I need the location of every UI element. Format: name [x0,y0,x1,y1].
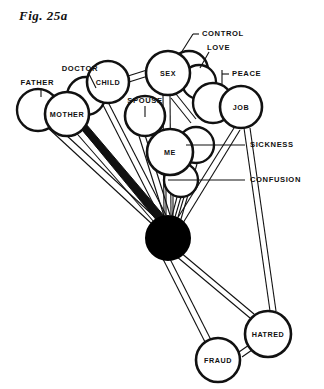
node-me-label: ME [164,148,176,157]
node-child-label: CHILD [96,78,121,87]
node-sex-label: SEX [160,69,176,78]
edge-hub-father [47,122,157,224]
callout-spouse-label: SPOUSE [127,96,162,105]
callout-control-label: CONTROL [202,29,244,38]
edge-job-hatred [244,128,276,311]
callout-doctor-label: DOCTOR [62,64,98,73]
diagram-svg: CHILD SEX JOB MOTHER ME HATRED FRAUD [0,0,324,389]
callout-father-label: FATHER [21,78,54,87]
callout-love-label: LOVE [207,43,230,52]
node-fraud-label: FRAUD [204,356,232,365]
node-hub[interactable] [146,216,190,260]
node-mother-label: MOTHER [50,110,85,119]
figure-canvas: Fig. 25a [0,0,324,389]
figure-caption-cutoff [0,381,324,389]
callout-sickness-label: SICKNESS [250,140,294,149]
callout-peace-label: PEACE [232,69,261,78]
node-job-label: JOB [233,103,249,112]
edge-hub-fraud [163,257,211,342]
callout-confusion-label: CONFUSION [250,175,301,184]
node-hatred-label: HATRED [252,330,285,339]
